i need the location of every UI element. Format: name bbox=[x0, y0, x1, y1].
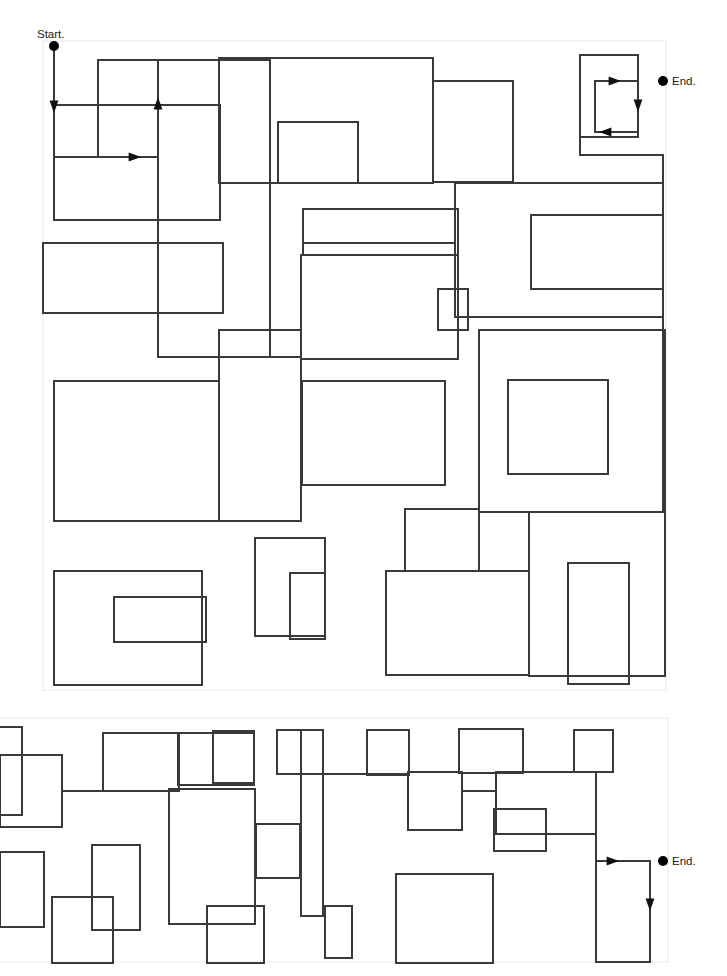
end-marker-top-dot-icon bbox=[658, 76, 668, 86]
start-marker-label: Start. bbox=[37, 28, 64, 40]
end-marker-bottom-dot-icon bbox=[658, 856, 668, 866]
start-marker-dot-icon bbox=[49, 41, 59, 51]
end-marker-top-label: End. bbox=[672, 75, 696, 87]
maze-stage: Start.End.End. bbox=[0, 0, 727, 976]
maze-svg-canvas: Start.End.End. bbox=[0, 0, 727, 976]
background bbox=[0, 0, 727, 976]
end-marker-bottom-label: End. bbox=[672, 855, 696, 867]
